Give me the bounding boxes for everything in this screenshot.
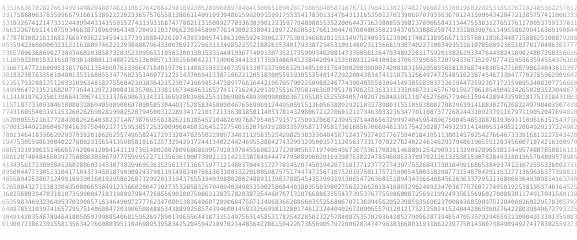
digit-row: 0190072386239155813563427660803951104698… xyxy=(2,221,577,228)
digit-row: 4056894253867124991693301601929586260712… xyxy=(2,176,577,183)
digit-row: 6535983469323649537039005716346490972777… xyxy=(2,199,577,206)
digit-row: 5235179328817512033109634818375560423918… xyxy=(2,80,577,87)
digit-row: 1366714772160095338176011354660761330647… xyxy=(2,65,577,72)
digit-row: 8950044773305131041710437345018790909243… xyxy=(2,169,577,176)
digit-row: 6488785310397416572957514060847203906508… xyxy=(2,206,577,213)
digit-row: 4134356172309584526028860314530738399695… xyxy=(2,162,577,169)
digit-grid-canvas: 8352663670282766349934982948874833106176… xyxy=(0,0,577,240)
digit-row: 8778783002161368276697036223459411773916… xyxy=(2,35,577,42)
digit-row: 7801346418336629293703920186262557496582… xyxy=(2,132,577,139)
digit-row: 2663236769114107503466387189699643487204… xyxy=(2,27,577,34)
digit-row: 3318326741214733124499944334155915274313… xyxy=(2,20,577,27)
digit-row: 5265804327133833043508066550491233668200… xyxy=(2,184,577,191)
digit-row: 7743168554031911532602626902819982520794… xyxy=(2,109,577,116)
digit-row: 8352663670282766349934982948874833106176… xyxy=(2,5,577,12)
digit-row: 3602568039470318107359900471031980979847… xyxy=(2,191,577,198)
digit-grid: 8352663670282766349934982948874833106176… xyxy=(2,5,577,229)
digit-row: 2818323876335010480135316805534776023514… xyxy=(2,72,577,79)
digit-row: 9861207484846603927588603050679777599952… xyxy=(2,154,577,161)
digit-row: 1110503200153216187030148801134887255136… xyxy=(2,57,577,64)
digit-row: 0535942366090032312116180974622129304887… xyxy=(2,42,577,49)
digit-row: 1499964723352168207736441397230084163570… xyxy=(2,87,577,94)
digit-row: 3049142035467894641805059799885406815962… xyxy=(2,214,577,221)
digit-row: 3317586806378359966791601538922220233657… xyxy=(2,12,577,19)
digit-row: 1157187731093846100803286940598900647090… xyxy=(2,102,577,109)
digit-row: 4114101976235013966413067413133766986313… xyxy=(2,94,577,101)
digit-row: 6700134492186049784163975040217715953857… xyxy=(2,124,577,131)
digit-row: 7365780636869027384346020185873283523995… xyxy=(2,50,577,57)
digit-row: 1947530559863004022768023156541359858101… xyxy=(2,139,577,146)
digit-row: 9865321930615146665742084120041431197361… xyxy=(2,147,577,154)
digit-row: 1620005552163772842082626403823714873876… xyxy=(2,117,577,124)
